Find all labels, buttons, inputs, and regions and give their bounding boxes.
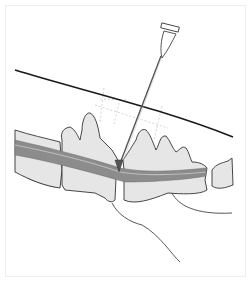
skin-line <box>15 70 233 137</box>
caudal-vertebra <box>212 158 233 188</box>
illustration-canvas <box>0 0 252 284</box>
needle-hub <box>161 31 176 58</box>
needle-hub-cap <box>161 23 180 32</box>
spinal-needle-diagram <box>0 0 252 284</box>
sacrum <box>123 129 207 202</box>
